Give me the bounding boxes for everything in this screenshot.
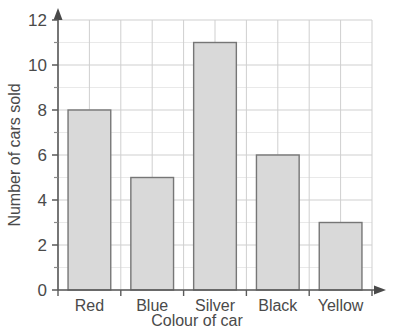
x-category-label-yellow: Yellow	[318, 297, 364, 314]
bar-rect	[68, 110, 111, 290]
bar-red	[68, 110, 111, 290]
y-tick-label: 12	[28, 11, 47, 30]
x-axis-title: Colour of car	[151, 312, 243, 329]
bar-rect	[131, 178, 174, 291]
bar-yellow	[319, 223, 362, 291]
bar-chart: 024681012 RedBlueSilverBlackYellow Colou…	[0, 0, 395, 332]
chart-canvas: 024681012 RedBlueSilverBlackYellow Colou…	[0, 0, 395, 332]
bar-rect	[256, 155, 299, 290]
bar-black	[256, 155, 299, 290]
y-tick-label: 6	[38, 146, 47, 165]
y-tick-label: 8	[38, 101, 47, 120]
y-tick-label: 2	[38, 236, 47, 255]
bar-rect	[319, 223, 362, 291]
x-category-label-black: Black	[258, 297, 298, 314]
y-axis-title: Number of cars sold	[6, 83, 23, 226]
bar-silver	[194, 43, 237, 291]
x-category-label-red: Red	[75, 297, 104, 314]
bar-rect	[194, 43, 237, 291]
y-tick-label: 4	[38, 191, 47, 210]
y-tick-label: 0	[38, 281, 47, 300]
y-tick-label: 10	[28, 56, 47, 75]
bar-blue	[131, 178, 174, 291]
